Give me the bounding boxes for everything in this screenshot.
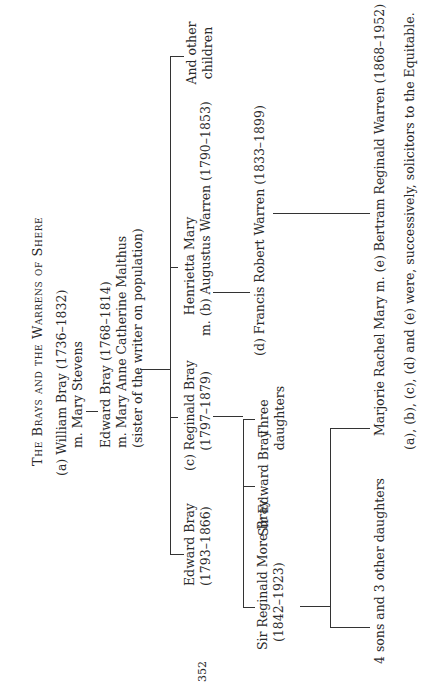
four-sons: 4 sons and 3 other daughters <box>372 478 387 664</box>
connector-line <box>213 292 250 293</box>
connector-line <box>140 369 170 370</box>
henrietta-mary: Henrietta Mary <box>182 196 197 336</box>
connector-line <box>330 428 331 628</box>
connector-line <box>213 416 243 417</box>
page-title: The Brays and the Warrens of Shere <box>30 217 45 466</box>
footnote: (a), (b), (c), (d) and (e) were, success… <box>402 12 417 450</box>
three-daughters-2: daughters <box>272 385 287 451</box>
sir-edward-bray: Sir Edward Bray <box>256 436 271 536</box>
three-daughters: Three <box>256 388 271 448</box>
edward-bray: Edward Bray <box>182 516 197 586</box>
william-spouse: m. Mary Stevens <box>70 341 85 448</box>
malthus-note: (sister of the writer on population) <box>130 228 145 448</box>
marjorie-rachel-mary: Marjorie Rachel Mary m. (e) Bertram Regi… <box>372 4 387 436</box>
augustus-warren: m. (b) Augustus Warren (1790–1853) <box>198 101 213 336</box>
connector-line <box>86 411 98 412</box>
william-bray: (a) William Bray (1736–1832) <box>54 290 69 476</box>
edward-senior-spouse: m. Mary Anne Catherine Malthus <box>114 236 129 448</box>
other-children-2: children <box>200 18 215 88</box>
page-number: 352 <box>195 661 210 682</box>
connector-line <box>170 417 178 418</box>
edward-bray-dates: (1793–1866) <box>198 516 213 586</box>
connector-line <box>273 213 370 214</box>
reginald-bray: (c) Reginald Bray <box>182 361 197 471</box>
connector-line <box>170 57 171 555</box>
edward-bray-senior: Edward Bray (1768–1814) <box>98 281 113 448</box>
other-children: And other <box>184 18 199 88</box>
connector-line <box>330 428 370 429</box>
sir-reginald-dates: (1842–1923) <box>271 562 286 642</box>
connector-line <box>243 419 244 608</box>
reginald-bray-dates: (1797–1879) <box>198 361 213 461</box>
connector-line <box>300 606 330 607</box>
connector-line <box>170 56 184 57</box>
connector-line <box>243 607 255 608</box>
connector-line <box>330 627 370 628</box>
connector-line <box>243 419 255 420</box>
connector-line <box>170 267 178 268</box>
connector-line <box>243 486 255 487</box>
francis-robert-warren: (d) Francis Robert Warren (1833–1899) <box>252 105 267 356</box>
